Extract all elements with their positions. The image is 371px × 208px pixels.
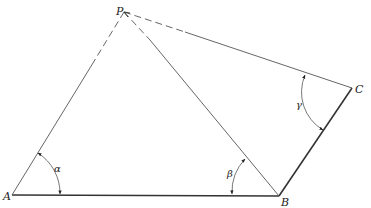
angle-alpha-label: α	[54, 163, 61, 174]
segment-b-c	[279, 88, 352, 196]
geometry-diagram: α β γ P A B C	[0, 0, 371, 208]
segment-p-c-solid	[185, 32, 352, 88]
angle-gamma-arc	[302, 75, 323, 130]
segment-p-b-solid	[150, 40, 279, 196]
segment-a-b	[12, 195, 279, 196]
point-p-label: P	[115, 5, 124, 18]
point-a-label: A	[2, 190, 11, 203]
point-b-label: B	[280, 196, 289, 208]
segment-p-a-dashed	[93, 12, 124, 63]
angle-beta-label: β	[226, 168, 233, 179]
angle-beta-arc	[232, 159, 245, 194]
angle-gamma-label: γ	[296, 99, 302, 110]
point-c-label: C	[355, 83, 364, 96]
arrowhead-p-icon	[124, 12, 130, 17]
segment-p-a-solid	[12, 63, 93, 195]
